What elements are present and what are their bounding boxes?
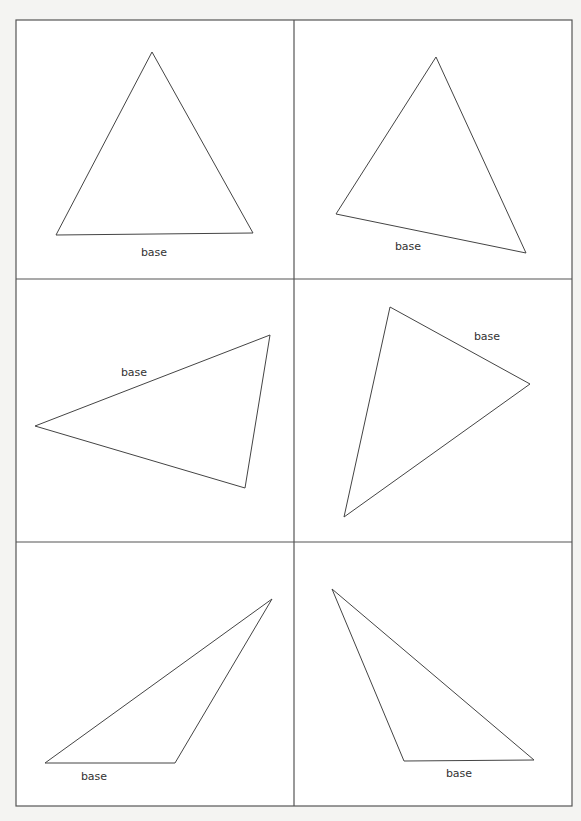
base-label-5: base bbox=[81, 770, 107, 783]
base-label-1: base bbox=[141, 246, 167, 259]
base-label-6: base bbox=[446, 767, 472, 780]
base-label-3: base bbox=[121, 366, 147, 379]
worksheet-page bbox=[0, 0, 581, 821]
base-label-4: base bbox=[474, 330, 500, 343]
base-label-2: base bbox=[395, 240, 421, 253]
